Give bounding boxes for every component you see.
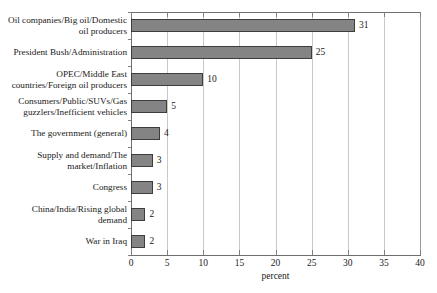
bar-chart: Oil companies/Big oil/Domesticoil produc…	[0, 0, 437, 293]
category-label: President Bush/Administration	[1, 47, 127, 57]
category-label-line: President Bush/Administration	[1, 47, 127, 57]
category-label-line: Oil companies/Big oil/Domestic	[1, 15, 127, 25]
gridline	[312, 12, 313, 255]
y-tick-mark	[128, 228, 131, 229]
y-tick-mark	[128, 174, 131, 175]
category-label-line: China/India/Rising global	[1, 204, 127, 214]
x-tick-mark	[420, 250, 421, 255]
y-tick-mark	[128, 93, 131, 94]
category-label-line: Congress	[1, 182, 127, 192]
x-tick-label: 30	[343, 258, 353, 269]
bar-value-label: 4	[164, 127, 169, 140]
x-axis-title: percent	[131, 271, 420, 281]
x-tick-mark	[312, 250, 313, 255]
category-label-line: Consumers/Public/SUVs/Gas	[1, 96, 127, 106]
x-tick-label: 20	[271, 258, 281, 269]
category-label: Oil companies/Big oil/Domesticoil produc…	[1, 15, 127, 36]
category-label-line: guzzlers/Inefficient vehicles	[1, 107, 127, 117]
category-label: The government (general)	[1, 128, 127, 138]
category-label-line: The government (general)	[1, 128, 127, 138]
bar	[131, 181, 153, 194]
category-label: War in Iraq	[1, 236, 127, 246]
bar-value-label: 2	[149, 235, 154, 248]
category-label: OPEC/Middle Eastcountries/Foreign oil pr…	[1, 69, 127, 90]
category-label: China/India/Rising globaldemand	[1, 204, 127, 225]
x-tick-label: 25	[307, 258, 317, 269]
gridline	[384, 12, 385, 255]
x-tick-mark	[131, 250, 132, 255]
x-tick-label: 5	[165, 258, 170, 269]
bar	[131, 154, 153, 167]
category-label: Congress	[1, 182, 127, 192]
right-axis-line	[420, 12, 421, 256]
x-tick-mark	[348, 250, 349, 255]
bar	[131, 19, 355, 32]
x-tick-label: 35	[379, 258, 389, 269]
x-tick-mark	[276, 250, 277, 255]
x-tick-mark-top	[420, 12, 421, 17]
category-label: Consumers/Public/SUVs/Gasguzzlers/Ineffi…	[1, 96, 127, 117]
x-axis-line	[131, 255, 421, 256]
x-tick-mark-top	[131, 12, 132, 17]
bar-value-label: 10	[207, 73, 217, 86]
y-tick-mark	[128, 66, 131, 67]
bar-value-label: 3	[157, 154, 162, 167]
bar-value-label: 31	[359, 19, 369, 32]
category-axis-labels: Oil companies/Big oil/Domesticoil produc…	[0, 12, 127, 255]
y-tick-mark	[128, 201, 131, 202]
category-label-line: War in Iraq	[1, 236, 127, 246]
bar	[131, 100, 167, 113]
category-label: Supply and demand/Themarket/Inflation	[1, 150, 127, 171]
bar	[131, 208, 145, 221]
x-tick-mark	[239, 250, 240, 255]
plot-area: 312510543322	[131, 12, 420, 255]
x-tick-mark-top	[348, 12, 349, 17]
bar	[131, 127, 160, 140]
x-tick-mark-top	[384, 12, 385, 17]
bar	[131, 73, 203, 86]
x-tick-mark	[203, 250, 204, 255]
x-tick-mark-top	[203, 12, 204, 17]
y-tick-mark	[128, 147, 131, 148]
y-tick-mark	[128, 120, 131, 121]
category-label-line: demand	[1, 215, 127, 225]
x-tick-mark-top	[167, 12, 168, 17]
gridline	[348, 12, 349, 255]
bar	[131, 46, 312, 59]
bar-value-label: 25	[316, 46, 326, 59]
y-tick-mark	[128, 255, 131, 256]
category-label-line: countries/Foreign oil producers	[1, 80, 127, 90]
x-tick-mark	[167, 250, 168, 255]
category-label-line: oil producers	[1, 26, 127, 36]
x-tick-label: 15	[235, 258, 245, 269]
category-label-line: OPEC/Middle East	[1, 69, 127, 79]
x-tick-mark	[384, 250, 385, 255]
x-tick-label: 40	[415, 258, 425, 269]
category-label-line: market/Inflation	[1, 161, 127, 171]
bar-value-label: 5	[171, 100, 176, 113]
y-tick-mark	[128, 39, 131, 40]
y-tick-mark	[128, 12, 131, 13]
x-tick-mark-top	[276, 12, 277, 17]
bar-value-label: 2	[149, 208, 154, 221]
x-tick-mark-top	[239, 12, 240, 17]
bar	[131, 235, 145, 248]
x-tick-mark-top	[312, 12, 313, 17]
x-tick-label: 0	[129, 258, 134, 269]
bar-value-label: 3	[157, 181, 162, 194]
category-label-line: Supply and demand/The	[1, 150, 127, 160]
x-tick-label: 10	[199, 258, 209, 269]
